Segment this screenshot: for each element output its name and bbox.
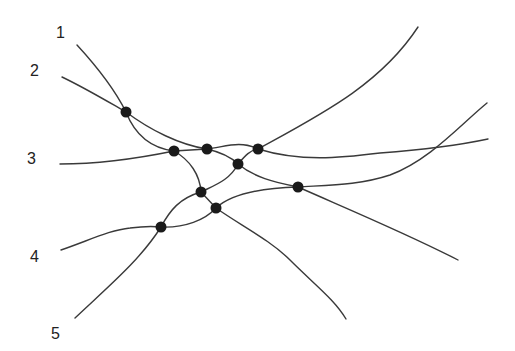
junction-node	[253, 144, 264, 155]
strand-edge	[216, 187, 298, 208]
strand-label-4: 4	[30, 248, 39, 265]
strand-label-1: 1	[56, 24, 65, 41]
nodes-group	[121, 107, 304, 233]
junction-node	[202, 144, 213, 155]
strand-edge	[201, 164, 238, 192]
network-diagram: 12345	[0, 0, 515, 351]
junction-node	[293, 182, 304, 193]
strand-label-3: 3	[27, 150, 36, 167]
strand-label-2: 2	[30, 62, 39, 79]
strand-edge	[216, 208, 346, 319]
junction-node	[233, 159, 244, 170]
strand-edge	[238, 164, 298, 187]
junction-node	[196, 187, 207, 198]
strand-edge	[207, 145, 258, 149]
strand-edge	[298, 187, 458, 260]
strand-edge	[61, 226, 161, 250]
strand-edge	[161, 208, 216, 227]
strand-edge	[174, 151, 201, 192]
junction-node	[156, 222, 167, 233]
junction-node	[211, 203, 222, 214]
junction-node	[169, 146, 180, 157]
strand-edge	[126, 112, 207, 149]
strand-edge	[77, 45, 126, 112]
strand-edge	[258, 139, 488, 158]
junction-node	[121, 107, 132, 118]
strand-label-5: 5	[51, 325, 60, 342]
labels-group: 12345	[27, 24, 65, 342]
strand-edge	[258, 27, 418, 149]
edges-group	[60, 27, 488, 319]
strand-edge	[60, 151, 174, 164]
